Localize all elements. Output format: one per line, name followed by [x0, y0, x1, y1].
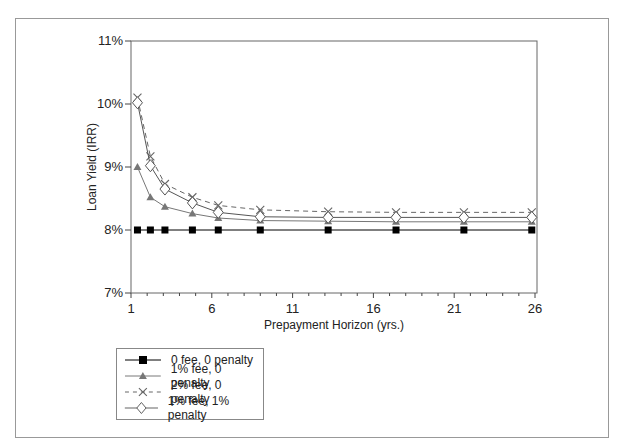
- x-tick-label: 21: [447, 301, 461, 316]
- diamond-marker-icon: [132, 97, 142, 109]
- square-marker-icon: [257, 227, 264, 234]
- triangle-marker-icon: [161, 203, 169, 210]
- triangle-marker-icon: [133, 163, 141, 170]
- triangle-marker-icon: [123, 369, 163, 383]
- square-marker-icon: [528, 227, 535, 234]
- square-marker-icon: [325, 227, 332, 234]
- x-axis-title: Prepayment Horizon (yrs.): [264, 318, 404, 332]
- series-line: [137, 98, 531, 213]
- square-marker-icon: [189, 227, 196, 234]
- x-tick-label: 6: [208, 301, 215, 316]
- y-tick-label: 9%: [104, 159, 123, 174]
- y-axis-title: Loan Yield (IRR): [85, 123, 99, 211]
- plot-area: [131, 41, 537, 293]
- square-marker-icon: [460, 227, 467, 234]
- x-tick-label: 11: [286, 301, 300, 316]
- diamond-marker-icon: [123, 401, 160, 415]
- x-tick-label: 1: [127, 301, 134, 316]
- legend: 0 fee, 0 penalty 1% fee, 0 penalty 2% fe…: [116, 348, 264, 420]
- square-marker-icon: [393, 227, 400, 234]
- square-marker-icon: [134, 227, 141, 234]
- y-tick-label: 11%: [98, 33, 123, 48]
- diamond-marker-icon: [160, 183, 170, 195]
- series-group: [132, 94, 536, 234]
- series-line: [137, 103, 531, 218]
- x-tick-label: 16: [366, 301, 380, 316]
- square-marker-icon: [123, 353, 163, 367]
- line-chart: 7%8%9%10%11%1611162126 Prepayment Horizo…: [0, 0, 623, 448]
- triangle-marker-icon: [146, 193, 154, 200]
- series-line: [137, 167, 531, 222]
- y-tick-label: 10%: [97, 96, 123, 111]
- x-tick-label: 26: [528, 301, 542, 316]
- diamond-marker-icon: [187, 197, 197, 209]
- square-marker-icon: [147, 227, 154, 234]
- diamond-marker-icon: [145, 160, 155, 172]
- x-marker-icon: [123, 385, 163, 399]
- y-tick-label: 7%: [104, 285, 123, 300]
- legend-item: 1% fee, 1% penalty: [123, 400, 263, 416]
- axes: 7%8%9%10%11%1611162126: [97, 33, 542, 316]
- square-marker-icon: [215, 227, 222, 234]
- legend-label: 1% fee, 1% penalty: [168, 394, 263, 422]
- y-tick-label: 8%: [104, 222, 123, 237]
- square-marker-icon: [161, 227, 168, 234]
